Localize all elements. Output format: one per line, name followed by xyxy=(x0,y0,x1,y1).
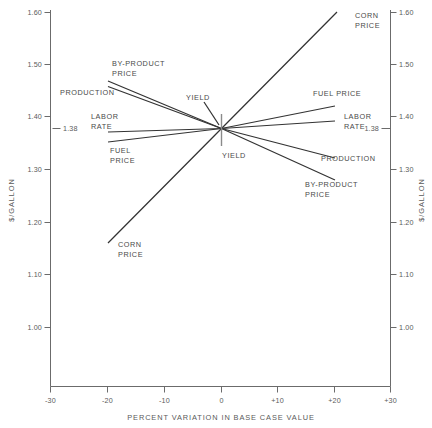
y-tick-labels-left: 1.60 1.50 1.40 1.30 1.20 1.10 1.00 1.38 xyxy=(27,8,77,332)
label-labor-rate-left-line1: LABOR xyxy=(91,112,119,121)
x-tick-label-+20: +20 xyxy=(328,396,341,405)
label-by-product-price-left-line1: BY-PRODUCT xyxy=(112,59,165,68)
label-corn-price-right-line2: PRICE xyxy=(355,21,380,30)
label-corn-price-left: CORN PRICE xyxy=(118,240,143,259)
x-tick-label-+30: +30 xyxy=(384,396,397,405)
y-tick-label-left-130: 1.30 xyxy=(27,165,42,174)
y-axis-title-right: $/GALLON xyxy=(417,178,426,221)
x-tick-label--30: -30 xyxy=(45,396,56,405)
y-tick-label-left-100: 1.00 xyxy=(27,323,42,332)
x-tick-label-+10: +10 xyxy=(271,396,284,405)
label-by-product-price-left-line2: PRICE xyxy=(112,69,137,78)
label-fuel-price-left-line1: FUEL xyxy=(110,146,131,155)
sensitivity-spider-chart: 1.60 1.50 1.40 1.30 1.20 1.10 1.00 1.38 … xyxy=(0,0,432,428)
x-tick-label--20: -20 xyxy=(102,396,113,405)
label-by-product-price-right-line2: PRICE xyxy=(305,190,330,199)
label-labor-rate-left-line2: RATE xyxy=(91,122,112,131)
label-by-product-price-right: BY-PRODUCT PRICE xyxy=(305,180,358,199)
y-tick-label-right-150: 1.50 xyxy=(399,60,414,69)
x-tick-label--10: -10 xyxy=(159,396,170,405)
y-axis-title-left: $/GALLON xyxy=(7,178,16,221)
x-tick-labels: -30 -20 -10 0 +10 +20 +30 xyxy=(45,396,397,405)
y-ticks-left xyxy=(45,13,61,328)
y-ticks-right xyxy=(382,13,397,328)
label-fuel-price-left: FUEL PRICE xyxy=(110,146,135,165)
y-tick-label-right-100: 1.00 xyxy=(399,323,414,332)
y-tick-labels-right: 1.60 1.50 1.40 1.30 1.20 1.10 1.00 1.38 xyxy=(364,8,413,332)
series-line-corn-price xyxy=(108,12,337,243)
y-tick-label-left-120: 1.20 xyxy=(27,218,42,227)
label-labor-rate-right-line2: RATE xyxy=(344,122,365,131)
label-corn-price-left-line2: PRICE xyxy=(118,250,143,259)
x-ticks xyxy=(51,387,391,393)
label-by-product-price-left: BY-PRODUCT PRICE xyxy=(112,59,165,78)
base-case-label-left: 1.38 xyxy=(63,124,78,133)
y-tick-label-left-110: 1.10 xyxy=(27,270,42,279)
label-corn-price-right: CORN PRICE xyxy=(355,11,380,30)
label-production-left: PRODUCTION xyxy=(60,88,115,97)
label-yield-upper: YIELD xyxy=(186,93,210,102)
chart-page: 1.60 1.50 1.40 1.30 1.20 1.10 1.00 1.38 … xyxy=(0,0,432,428)
y-tick-label-right-130: 1.30 xyxy=(399,165,414,174)
label-labor-rate-left: LABOR RATE xyxy=(91,112,119,131)
base-case-label-right: 1.38 xyxy=(364,124,379,133)
label-production-right: PRODUCTION xyxy=(321,154,376,163)
y-tick-label-left-150: 1.50 xyxy=(27,60,42,69)
y-tick-label-right-120: 1.20 xyxy=(399,218,414,227)
y-tick-label-left-160: 1.60 xyxy=(27,8,42,17)
x-axis-title: PERCENT VARIATION IN BASE CASE VALUE xyxy=(127,413,315,422)
label-yield-lower: YIELD xyxy=(222,151,246,160)
y-tick-label-right-160: 1.60 xyxy=(399,8,414,17)
label-labor-rate-right-line1: LABOR xyxy=(344,112,372,121)
label-fuel-price-left-line2: PRICE xyxy=(110,156,135,165)
x-tick-label-0: 0 xyxy=(219,396,223,405)
y-tick-label-left-140: 1.40 xyxy=(27,112,42,121)
y-tick-label-right-140: 1.40 xyxy=(399,112,414,121)
label-corn-price-left-line1: CORN xyxy=(118,240,142,249)
y-tick-label-right-110: 1.10 xyxy=(399,270,414,279)
label-fuel-price-right: FUEL PRICE xyxy=(313,89,361,98)
label-corn-price-right-line1: CORN xyxy=(355,11,379,20)
label-by-product-price-right-line1: BY-PRODUCT xyxy=(305,180,358,189)
